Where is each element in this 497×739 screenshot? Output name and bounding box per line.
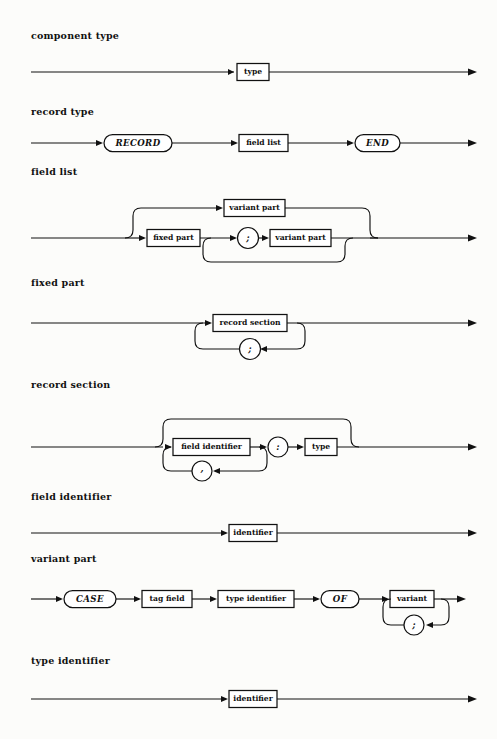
arrow-into-type-box — [228, 69, 234, 75]
punct-label-comma: , — [199, 463, 203, 474]
nonterminal-label-variant: variant — [396, 594, 428, 603]
arrow-into-loop-semicolon — [426, 622, 433, 628]
arrow-into-fixed-part — [139, 235, 146, 241]
arrow-into-end-kw — [347, 140, 354, 146]
arrow-into-semicolon — [230, 235, 237, 241]
diagram-fixed-part: record section ; — [0, 308, 497, 372]
arrow-exit — [468, 530, 477, 537]
nonterminal-label-tag-field: tag field — [150, 594, 186, 603]
punct-label-semicolon: ; — [245, 233, 249, 243]
diagram-record-type: RECORD field list END — [0, 128, 497, 158]
keyword-label-case: CASE — [76, 594, 104, 604]
arrow-into-fieldlist — [231, 140, 238, 146]
diagram-component-type: type — [0, 55, 497, 89]
nonterminal-label-record-section: record section — [219, 318, 281, 327]
nonterminal-label-type: type — [244, 67, 262, 76]
arrow-into-variant-part-upper — [216, 205, 223, 211]
arrow-exit — [457, 596, 466, 603]
arrow-exit — [468, 320, 477, 327]
section-label-record-type: record type — [31, 106, 94, 117]
punct-label-semicolon: ; — [411, 620, 415, 630]
arrow-into-record-section — [205, 320, 212, 326]
keyword-label-record: RECORD — [114, 138, 160, 148]
section-label-field-list: field list — [31, 166, 77, 177]
arrow-into-comma — [213, 468, 220, 474]
nonterminal-label-variant-part-lower: variant part — [274, 233, 326, 242]
section-label-field-identifier: field identifier — [31, 491, 111, 502]
section-label-type-identifier: type identifier — [31, 655, 110, 666]
arrow-into-type-identifier — [210, 596, 217, 602]
nonterminal-label-field-identifier: field identifier — [181, 442, 242, 451]
arrow-into-of-kw — [313, 596, 320, 602]
arrow-exit — [468, 444, 477, 451]
arrow-into-identifier — [221, 530, 228, 536]
punct-label-colon: : — [276, 442, 279, 452]
nonterminal-label-identifier: identifier — [233, 528, 273, 537]
arrow-exit — [468, 696, 477, 703]
arrow-into-record-kw — [96, 140, 103, 146]
punct-label-semicolon: ; — [247, 344, 251, 354]
diagram-field-list: variant part fixed part ; variant part — [0, 192, 497, 272]
arrow-into-case-kw — [56, 596, 63, 602]
nonterminal-label-field-list: field list — [246, 138, 281, 147]
keyword-label-end: END — [365, 138, 389, 148]
arrow-exit — [468, 235, 477, 242]
arrow-exit — [468, 140, 477, 147]
section-label-variant-part: variant part — [31, 553, 97, 564]
arrow-exit — [468, 69, 477, 76]
arrow-into-type — [297, 444, 304, 450]
nonterminal-label-type: type — [312, 442, 330, 451]
section-label-component-type: component type — [31, 30, 119, 41]
diagram-record-section: field identifier : type , — [0, 405, 497, 485]
diagram-variant-part: CASE tag field type identifier OF varian… — [0, 585, 497, 645]
diagram-page: component type type record type RECORD f… — [0, 0, 497, 739]
section-label-fixed-part: fixed part — [31, 277, 85, 288]
arrow-into-variant-part-lower — [262, 235, 269, 241]
diagram-type-identifier: identifier — [0, 684, 497, 714]
nonterminal-label-variant-part-upper: variant part — [228, 203, 280, 212]
arrow-into-identifier — [221, 696, 228, 702]
nonterminal-label-identifier: identifier — [233, 694, 273, 703]
section-label-record-section: record section — [31, 379, 110, 390]
nonterminal-label-fixed-part: fixed part — [153, 233, 194, 242]
nonterminal-label-type-identifier: type identifier — [226, 594, 287, 603]
arrow-into-tag-field — [134, 596, 141, 602]
diagram-field-identifier: identifier — [0, 518, 497, 548]
keyword-label-of: OF — [333, 594, 348, 604]
